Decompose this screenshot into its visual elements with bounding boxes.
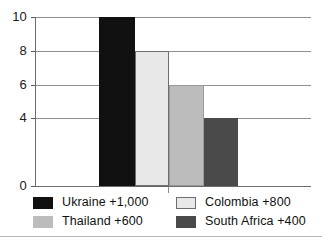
y-axis-line	[35, 17, 36, 187]
legend-label-ukraine: Ukraine +1,000	[62, 196, 149, 209]
legend-swatch-ukraine	[33, 197, 53, 209]
bar-thailand	[169, 85, 204, 186]
legend-swatch-thailand	[33, 216, 53, 228]
ytick-label-8: 8	[0, 44, 27, 57]
legend-swatch-south-africa	[176, 216, 196, 228]
bar-colombia	[135, 51, 169, 186]
plot-area: 10 8 6 4 0	[0, 0, 322, 200]
legend-swatch-colombia	[176, 197, 196, 209]
legend-label-colombia: Colombia +800	[205, 196, 291, 209]
legend-item-ukraine: Ukraine +1,000	[33, 196, 176, 209]
chart-legend: Ukraine +1,000 Colombia +800 Thailand +6…	[33, 193, 313, 231]
legend-row: Ukraine +1,000 Colombia +800	[33, 193, 313, 212]
legend-item-colombia: Colombia +800	[176, 196, 313, 209]
ytick-label-6: 6	[0, 78, 27, 91]
bar-south-africa	[204, 118, 238, 186]
legend-item-south-africa: South Africa +400	[176, 215, 313, 228]
legend-item-thailand: Thailand +600	[33, 215, 176, 228]
x-axis-baseline	[35, 186, 311, 187]
bar-ukraine	[99, 17, 135, 186]
gridline-8	[35, 51, 311, 52]
ytick-label-0: 0	[0, 179, 27, 192]
ytick-label-10: 10	[0, 10, 27, 23]
ytick-label-4: 4	[0, 111, 27, 124]
bar-chart: 10 8 6 4 0 Ukraine +1,000 Colombia +800	[0, 0, 322, 242]
legend-label-south-africa: South Africa +400	[205, 215, 306, 228]
gridline-10	[35, 17, 311, 18]
bottom-divider	[0, 236, 322, 237]
legend-label-thailand: Thailand +600	[62, 215, 143, 228]
legend-row: Thailand +600 South Africa +400	[33, 212, 313, 231]
